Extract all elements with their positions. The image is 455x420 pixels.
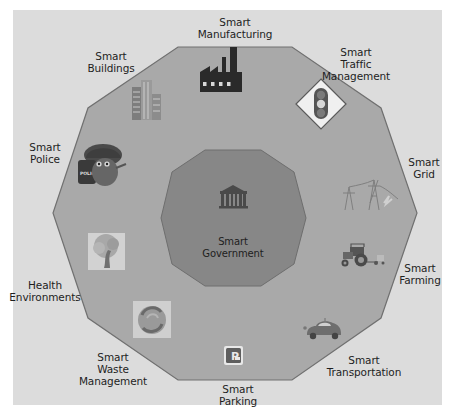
tree-icon: [88, 233, 125, 270]
svg-text:P: P: [231, 350, 239, 363]
recycle-icon: [133, 301, 171, 338]
label-smart-buildings: SmartBuildings: [87, 50, 134, 74]
label-smart-traffic-management: SmartTrafficManagement: [322, 46, 390, 82]
inner-decagon: [161, 150, 306, 286]
label-smart-manufacturing: SmartManufacturing: [198, 16, 273, 40]
label-smart-waste-management: SmartWasteManagement: [79, 351, 147, 387]
label-smart-transportation: SmartTransportation: [327, 354, 401, 378]
label-smart-parking: SmartParking: [219, 383, 257, 407]
parking-icon: P: [224, 346, 243, 365]
label-smart-grid: SmartGrid: [408, 156, 439, 180]
label-smart-government: SmartGovernment: [202, 236, 263, 260]
label-smart-farming: SmartFarming: [399, 262, 440, 286]
label-smart-police: SmartPolice: [29, 141, 60, 165]
label-health-environments: HealthEnvironments: [9, 279, 80, 303]
